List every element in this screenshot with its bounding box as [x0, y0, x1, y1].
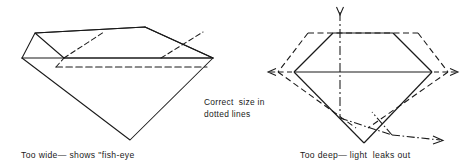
center-note-line-1: Correct size in: [204, 97, 265, 107]
figure-background: [0, 0, 475, 168]
left-panel-caption: Too wide— shows "fish-eye: [21, 150, 135, 160]
center-note-line-2: dotted lines: [204, 109, 250, 119]
right-panel-caption: Too deep— light leaks out: [300, 150, 411, 160]
diamond-cut-comparison-figure: Too wide— shows "fish-eye Correct size i…: [0, 0, 475, 168]
